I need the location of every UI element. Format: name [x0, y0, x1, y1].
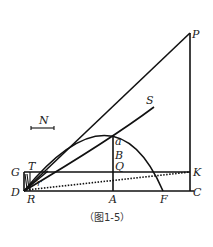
label-T: T — [28, 160, 37, 173]
label-a: a — [115, 135, 122, 148]
label-R: R — [26, 193, 35, 206]
label-A: A — [108, 193, 117, 206]
label-N: N — [38, 114, 49, 127]
label-Q: Q — [115, 160, 124, 173]
label-G: G — [11, 166, 20, 179]
label-D: D — [10, 186, 20, 199]
label-P: P — [191, 28, 200, 41]
label-F: F — [159, 193, 168, 206]
label-C: C — [193, 186, 202, 199]
label-r: r — [37, 178, 42, 188]
figure-caption: （图1-5） — [84, 212, 130, 223]
parabola-curve — [24, 136, 163, 192]
label-S: S — [146, 94, 154, 107]
line-DP — [24, 33, 190, 191]
geometry-diagram: P S N a B Q G T K D R r A F C （图1-5） — [0, 0, 213, 247]
label-K: K — [192, 166, 202, 179]
